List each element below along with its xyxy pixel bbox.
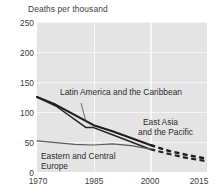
y-tick-100: 100	[4, 108, 34, 118]
annotation-latin-america: Latin America and the Caribbean	[60, 88, 182, 98]
chart-axis-title: Deaths per thousand	[28, 4, 108, 14]
y-tick-250: 250	[4, 18, 34, 28]
annotation-east-asia-line2: and the Pacific	[138, 128, 193, 138]
series-latin-america-solid	[37, 97, 150, 145]
x-tick-2000: 2000	[130, 176, 170, 186]
annotation-eastern-europe-line2: Europe	[41, 162, 68, 172]
series-east-asia-solid	[37, 97, 150, 149]
y-axis-tick-labels: 250 200 150 100 50 0	[0, 0, 34, 196]
y-tick-50: 50	[4, 138, 34, 148]
y-tick-150: 150	[4, 78, 34, 88]
series-east-asia-dashed	[150, 149, 207, 161]
x-tick-1970: 1970	[18, 176, 58, 186]
x-tick-1985: 1985	[74, 176, 114, 186]
x-tick-2015: 2015	[179, 176, 219, 186]
y-tick-200: 200	[4, 48, 34, 58]
chart-container: Deaths per thousand 250 200 150 100 50 0…	[0, 0, 219, 196]
